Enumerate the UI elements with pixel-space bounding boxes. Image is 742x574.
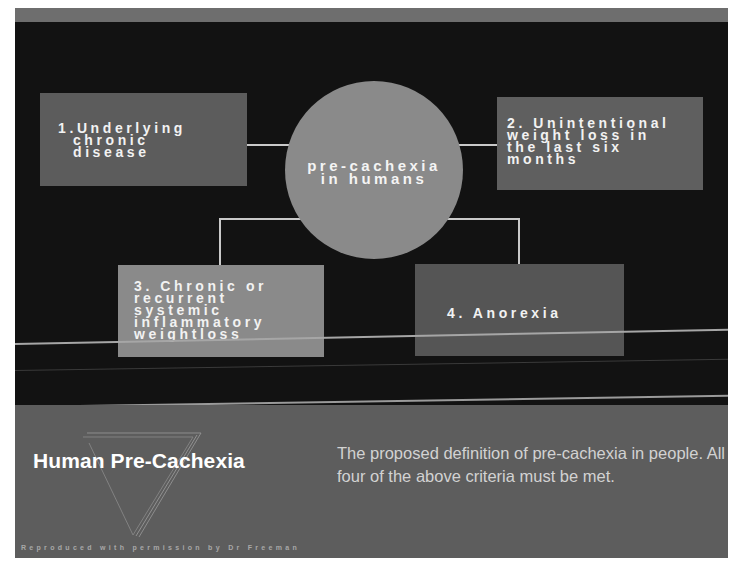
- connector-center-to-2: [459, 144, 497, 146]
- criterion-4-box: 4. Anorexia: [415, 264, 624, 356]
- criterion-2-text: 2. Unintentional weight loss in the last…: [507, 117, 703, 165]
- connector-center-to-3-vertical: [219, 218, 221, 266]
- criterion-2-box: 2. Unintentional weight loss in the last…: [497, 97, 703, 190]
- connector-center-to-3-horizontal: [219, 218, 309, 220]
- triangle-outline-icon: [81, 425, 211, 540]
- top-band: [15, 8, 728, 22]
- infographic-frame: pre-cachexia in humans 1.Underlying chro…: [15, 8, 728, 558]
- criterion-3-text: 3. Chronic or recurrent systemic inflamm…: [134, 280, 324, 340]
- caption-panel: Human Pre-Cachexia The proposed definiti…: [15, 405, 728, 558]
- connector-center-to-4-horizontal: [440, 218, 520, 220]
- caption-title: Human Pre-Cachexia: [33, 449, 245, 473]
- criterion-1-box: 1.Underlying chronic disease: [40, 93, 247, 186]
- connector-center-to-4-vertical: [518, 218, 520, 265]
- criterion-1-text: 1.Underlying chronic disease: [58, 122, 247, 158]
- caption-description: The proposed definition of pre-cachexia …: [337, 442, 727, 488]
- center-node: pre-cachexia in humans: [285, 81, 463, 259]
- criterion-4-text: 4. Anorexia: [447, 307, 624, 319]
- connector-1-to-center: [247, 144, 289, 146]
- criterion-3-box: 3. Chronic or recurrent systemic inflamm…: [118, 265, 324, 357]
- center-label-line2: in humans: [321, 172, 428, 185]
- credit-text: Reproduced with permission by Dr Freeman: [21, 544, 300, 551]
